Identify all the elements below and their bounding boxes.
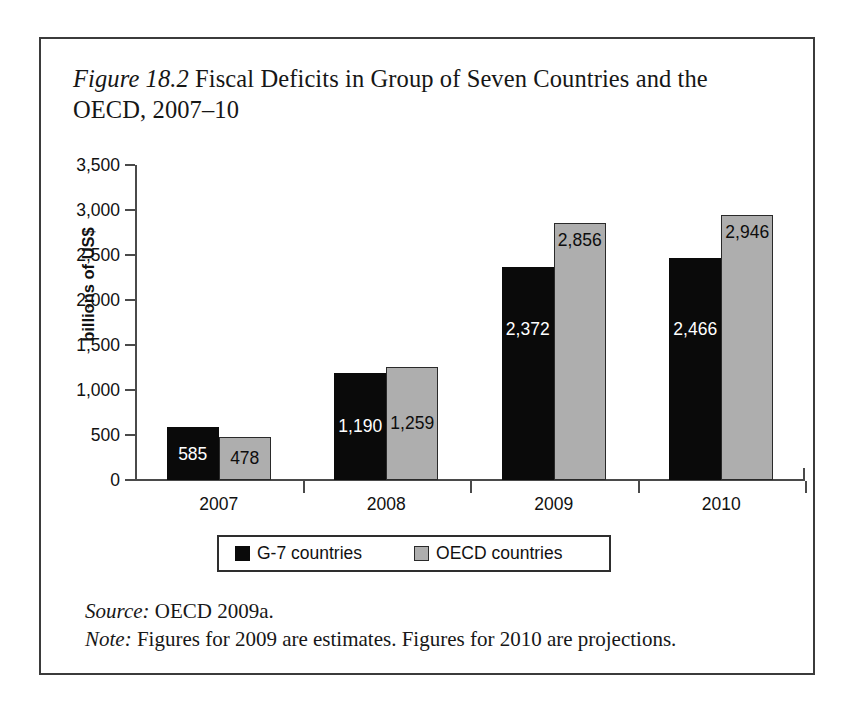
bar-g-7-countries-2008: 1,190 xyxy=(334,373,386,480)
bar-value-label: 478 xyxy=(220,450,270,468)
y-axis-tick-label: 3,000 xyxy=(42,200,120,221)
bar-value-label: 585 xyxy=(168,446,218,464)
y-axis-tick xyxy=(125,254,135,256)
y-axis-tick-label: 0 xyxy=(42,470,120,491)
bar-value-label: 2,946 xyxy=(722,224,772,242)
bar-oecd-countries-2007: 478 xyxy=(219,437,271,480)
x-axis-tick xyxy=(470,481,472,493)
x-axis-label-2009: 2009 xyxy=(474,494,634,515)
bar-g-7-countries-2009: 2,372 xyxy=(502,267,554,480)
figure-frame: Figure 18.2 Fiscal Deficits in Group of … xyxy=(39,37,815,675)
bar-g-7-countries-2010: 2,466 xyxy=(669,258,721,480)
source-text: OECD 2009a. xyxy=(150,599,274,623)
legend-swatch-g7-icon xyxy=(235,546,250,561)
x-axis-end-tick xyxy=(803,468,805,481)
legend-item-oecd: OECD countries xyxy=(414,543,562,564)
x-axis-label-2008: 2008 xyxy=(306,494,466,515)
y-axis-tick xyxy=(125,164,135,166)
x-axis-label-2010: 2010 xyxy=(641,494,801,515)
y-axis-line xyxy=(135,165,137,481)
bar-oecd-countries-2010: 2,946 xyxy=(721,215,773,480)
chart-plot-region: billions of US$ 05001,0001,5002,0002,500… xyxy=(41,39,817,677)
legend-swatch-oecd-icon xyxy=(414,546,429,561)
chart-legend: G-7 countries OECD countries xyxy=(217,535,611,572)
x-axis-tick xyxy=(303,481,305,493)
bar-oecd-countries-2008: 1,259 xyxy=(386,367,438,480)
note-text: Figures for 2009 are estimates. Figures … xyxy=(132,627,677,651)
y-axis-tick-label: 500 xyxy=(42,425,120,446)
x-axis-tick xyxy=(805,481,807,493)
x-axis-label-2007: 2007 xyxy=(139,494,299,515)
y-axis-tick-label: 2,500 xyxy=(42,245,120,266)
bar-value-label: 2,466 xyxy=(670,321,720,339)
figure-note: Note: Figures for 2009 are estimates. Fi… xyxy=(85,626,785,654)
y-axis-tick-label: 1,500 xyxy=(42,335,120,356)
bar-value-label: 1,259 xyxy=(387,415,437,433)
y-axis-tick xyxy=(125,389,135,391)
bar-value-label: 2,372 xyxy=(503,321,553,339)
figure-source: Source: OECD 2009a. xyxy=(85,598,785,626)
note-lead: Note: xyxy=(85,627,132,651)
bar-value-label: 1,190 xyxy=(335,418,385,436)
source-lead: Source: xyxy=(85,599,150,623)
y-axis-tick-labels: 05001,0001,5002,0002,5003,0003,500 xyxy=(41,39,120,677)
y-axis-tick-label: 2,000 xyxy=(42,290,120,311)
bar-g-7-countries-2007: 585 xyxy=(167,427,219,480)
x-axis-tick xyxy=(638,481,640,493)
y-axis-tick xyxy=(125,434,135,436)
legend-label-g7: G-7 countries xyxy=(257,543,362,564)
y-axis-tick xyxy=(125,479,135,481)
legend-item-g7: G-7 countries xyxy=(235,543,362,564)
y-axis-tick-label: 3,500 xyxy=(42,155,120,176)
bar-value-label: 2,856 xyxy=(555,232,605,250)
y-axis-tick xyxy=(125,209,135,211)
y-axis-tick xyxy=(125,344,135,346)
y-axis-tick-label: 1,000 xyxy=(42,380,120,401)
bar-oecd-countries-2009: 2,856 xyxy=(554,223,606,480)
y-axis-tick xyxy=(125,299,135,301)
figure-footnotes: Source: OECD 2009a. Note: Figures for 20… xyxy=(85,598,785,654)
legend-label-oecd: OECD countries xyxy=(436,543,562,564)
